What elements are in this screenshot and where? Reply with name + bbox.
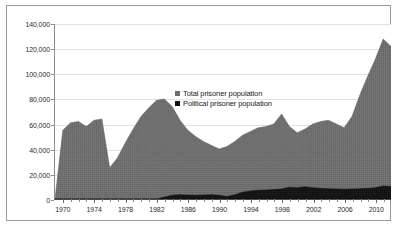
x-axis-minor-tick — [361, 199, 362, 202]
x-axis-minor-tick — [212, 199, 213, 202]
x-axis-minor-tick — [267, 199, 268, 202]
x-axis-minor-tick — [243, 199, 244, 202]
x-axis-minor-tick — [259, 199, 260, 202]
x-axis-tick-label: 1998 — [275, 206, 290, 213]
x-axis-minor-tick — [196, 199, 197, 202]
x-axis-minor-tick — [118, 199, 119, 202]
legend-swatch-political-icon — [175, 101, 180, 106]
x-axis-minor-tick — [79, 199, 80, 202]
x-axis-minor-tick — [290, 199, 291, 202]
x-axis-minor-tick — [298, 199, 299, 202]
x-axis-tick-label: 2006 — [337, 206, 352, 213]
legend-item-political: Political prisoner population — [175, 100, 272, 108]
x-axis-tick-label: 1986 — [181, 206, 196, 213]
x-axis: 1970197419781982198619901994199820022006… — [55, 199, 391, 223]
x-axis-minor-tick — [321, 199, 322, 202]
x-axis-tick-label: 1982 — [149, 206, 164, 213]
x-axis-major-tick — [376, 199, 377, 203]
x-axis-minor-tick — [384, 199, 385, 202]
x-axis-minor-tick — [173, 199, 174, 202]
y-axis-tick-label: 100,000 — [25, 71, 50, 78]
x-axis-tick-label: 1994 — [243, 206, 258, 213]
x-axis-minor-tick — [102, 199, 103, 202]
x-axis-major-tick — [345, 199, 346, 203]
y-axis-tick-label: 0 — [46, 197, 50, 204]
plot-area: 1970197419781982198619901994199820022006… — [54, 24, 391, 200]
x-axis-tick-label: 1974 — [87, 206, 102, 213]
x-axis-minor-tick — [274, 199, 275, 202]
y-axis-tick-label: 40,000 — [29, 146, 50, 153]
y-axis-tick-label: 140,000 — [25, 21, 50, 28]
series-total-area — [55, 39, 391, 199]
x-axis-tick-label: 1990 — [212, 206, 227, 213]
x-axis-minor-tick — [368, 199, 369, 202]
x-axis-minor-tick — [353, 199, 354, 202]
x-axis-minor-tick — [337, 199, 338, 202]
x-axis-tick-label: 1970 — [55, 206, 70, 213]
x-axis-major-tick — [220, 199, 221, 203]
y-axis-tick — [51, 200, 54, 201]
x-axis-tick-label: 1978 — [118, 206, 133, 213]
x-axis-major-tick — [157, 199, 158, 203]
x-axis-tick-label: 2002 — [306, 206, 321, 213]
legend-label-political: Political prisoner population — [183, 100, 272, 108]
x-axis-minor-tick — [204, 199, 205, 202]
x-axis-minor-tick — [110, 199, 111, 202]
y-axis-tick-label: 60,000 — [29, 121, 50, 128]
legend: Total prisoner population Political pris… — [175, 90, 272, 107]
legend-item-total: Total prisoner population — [175, 90, 272, 98]
x-axis-minor-tick — [165, 199, 166, 202]
area-chart-svg — [55, 24, 391, 199]
x-axis-minor-tick — [71, 199, 72, 202]
legend-label-total: Total prisoner population — [183, 90, 262, 98]
x-axis-minor-tick — [133, 199, 134, 202]
x-axis-minor-tick — [149, 199, 150, 202]
x-axis-major-tick — [282, 199, 283, 203]
x-axis-tick-label: 2010 — [369, 206, 384, 213]
chart-screenshot: 020,00040,00060,00080,000100,000120,0001… — [0, 0, 399, 231]
x-axis-minor-tick — [235, 199, 236, 202]
x-axis-major-tick — [188, 199, 189, 203]
x-axis-major-tick — [126, 199, 127, 203]
figure-frame: 020,00040,00060,00080,000100,000120,0001… — [6, 5, 391, 221]
x-axis-major-tick — [94, 199, 95, 203]
x-axis-minor-tick — [86, 199, 87, 202]
x-axis-minor-tick — [329, 199, 330, 202]
x-axis-minor-tick — [180, 199, 181, 202]
x-axis-major-tick — [251, 199, 252, 203]
x-axis-major-tick — [314, 199, 315, 203]
y-axis-tick-label: 80,000 — [29, 96, 50, 103]
y-axis-tick-label: 120,000 — [25, 46, 50, 53]
y-axis: 020,00040,00060,00080,000100,000120,0001… — [7, 6, 54, 220]
x-axis-minor-tick — [306, 199, 307, 202]
x-axis-major-tick — [63, 199, 64, 203]
y-axis-tick-label: 20,000 — [29, 171, 50, 178]
x-axis-minor-tick — [141, 199, 142, 202]
x-axis-minor-tick — [227, 199, 228, 202]
legend-swatch-total-icon — [175, 91, 180, 96]
